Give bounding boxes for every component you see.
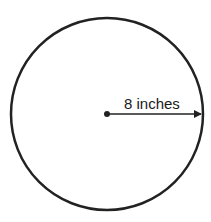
radius-label: 8 inches [124, 95, 180, 112]
circle-diagram: 8 inches [0, 0, 211, 222]
